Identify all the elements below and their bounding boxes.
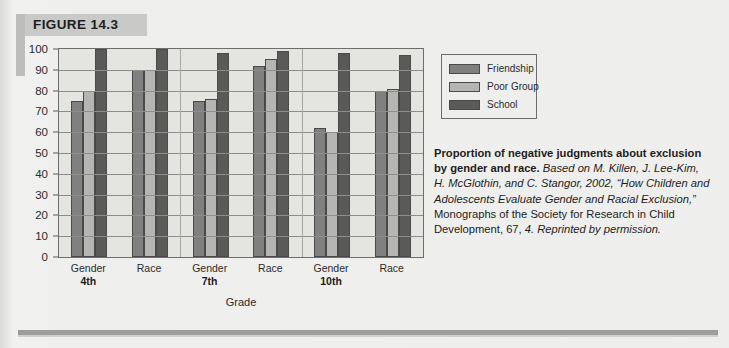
x-category-label: Race bbox=[258, 262, 283, 275]
y-tick-label: 40 bbox=[35, 168, 48, 180]
x-category-label: Gender bbox=[313, 262, 348, 275]
y-tick-label: 80 bbox=[35, 85, 48, 97]
legend-label: School bbox=[487, 99, 518, 110]
y-tick-label: 0 bbox=[42, 251, 48, 263]
bar bbox=[277, 51, 289, 257]
legend-swatch bbox=[449, 82, 480, 92]
grid-line bbox=[59, 132, 423, 133]
legend-label: Friendship bbox=[487, 63, 534, 74]
grid-line bbox=[59, 215, 423, 216]
x-group-label: Gender10th bbox=[313, 262, 348, 288]
bar bbox=[314, 128, 326, 257]
bar bbox=[193, 101, 205, 257]
grid-line bbox=[59, 111, 423, 112]
bar bbox=[71, 101, 83, 257]
y-tick-label: 70 bbox=[35, 105, 48, 117]
plot-area bbox=[58, 48, 424, 258]
page-left-edge bbox=[0, 0, 14, 348]
legend-swatch bbox=[449, 100, 480, 110]
figure-caption: Proportion of negative judgments about e… bbox=[434, 146, 712, 237]
legend-item: Friendship bbox=[449, 61, 530, 76]
y-tick-label: 50 bbox=[35, 147, 48, 159]
caption-source-3: 4. Reprinted by permission. bbox=[522, 223, 661, 235]
x-axis-title: Grade bbox=[58, 296, 424, 308]
bar bbox=[217, 53, 229, 257]
legend-label: Poor Group bbox=[487, 81, 539, 92]
x-category-label: Gender bbox=[71, 262, 106, 275]
y-axis: 0102030405060708090100 bbox=[22, 48, 52, 258]
y-tick-label: 100 bbox=[29, 43, 48, 55]
legend-item: School bbox=[449, 97, 530, 112]
grade-divider bbox=[302, 49, 303, 257]
y-tick-label: 90 bbox=[35, 64, 48, 76]
figure-tag-label: FIGURE 14.3 bbox=[33, 17, 118, 32]
bar bbox=[399, 55, 411, 257]
x-category-label: Race bbox=[137, 262, 162, 275]
x-grade-label: 7th bbox=[192, 275, 227, 288]
bar bbox=[338, 53, 350, 257]
x-group-label: Race bbox=[137, 262, 162, 275]
grid-line bbox=[59, 91, 423, 92]
grid-line bbox=[59, 153, 423, 154]
x-group-label: Gender4th bbox=[71, 262, 106, 288]
grid-line bbox=[59, 195, 423, 196]
grid-line bbox=[59, 236, 423, 237]
y-tick-label: 30 bbox=[35, 189, 48, 201]
y-tick-label: 60 bbox=[35, 126, 48, 138]
x-group-label: Race bbox=[379, 262, 404, 275]
legend-item: Poor Group bbox=[449, 79, 530, 94]
bar bbox=[205, 99, 217, 257]
bar bbox=[144, 70, 156, 257]
x-grade-label: 4th bbox=[71, 275, 106, 288]
x-axis-labels: Gender4thRaceGender7thRaceGender10thRace bbox=[58, 260, 424, 294]
bar bbox=[132, 70, 144, 257]
chart-legend: FriendshipPoor GroupSchool bbox=[441, 54, 537, 119]
x-category-label: Race bbox=[379, 262, 404, 275]
figure-page: FIGURE 14.3 0102030405060708090100 Gende… bbox=[0, 0, 729, 348]
grade-divider bbox=[180, 49, 181, 257]
bar bbox=[253, 66, 265, 257]
x-grade-label: 10th bbox=[313, 275, 348, 288]
bar bbox=[387, 89, 399, 257]
legend-swatch bbox=[449, 64, 480, 74]
bar bbox=[265, 59, 277, 257]
x-group-label: Race bbox=[258, 262, 283, 275]
x-group-label: Gender7th bbox=[192, 262, 227, 288]
x-category-label: Gender bbox=[192, 262, 227, 275]
y-tick-label: 10 bbox=[35, 230, 48, 242]
grid-line bbox=[59, 174, 423, 175]
bar-chart: 0102030405060708090100 Gender4thRaceGend… bbox=[22, 48, 426, 278]
grid-line bbox=[59, 70, 423, 71]
y-tick-label: 20 bbox=[35, 209, 48, 221]
page-bottom-rule bbox=[18, 330, 718, 335]
